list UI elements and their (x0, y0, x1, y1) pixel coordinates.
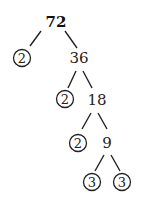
prime-3-a: 3 (88, 175, 96, 190)
prime-2-c: 2 (74, 136, 82, 151)
edge-18-9 (98, 113, 107, 129)
prime-2-b: 2 (61, 92, 69, 107)
prime-2-a: 2 (18, 51, 26, 66)
edge-36-2 (68, 71, 76, 88)
node-36: 36 (69, 49, 88, 67)
edge-9-3a (95, 155, 104, 171)
prime-3-b: 3 (118, 175, 126, 190)
node-18: 18 (87, 91, 106, 109)
edge-72-36 (65, 31, 77, 48)
edge-9-3b (111, 155, 120, 171)
edge-36-18 (83, 71, 92, 88)
factor-tree: 72 2 36 2 18 2 9 3 3 (0, 0, 144, 208)
edge-72-2 (30, 31, 41, 46)
node-9: 9 (102, 134, 112, 152)
edge-18-2 (82, 113, 91, 129)
node-72: 72 (46, 13, 67, 31)
